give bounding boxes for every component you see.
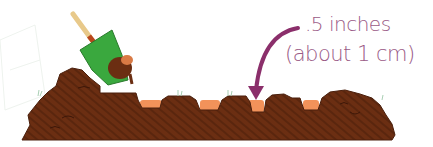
- background-grid: [0, 25, 45, 110]
- planting-depth-illustration: .5 inches (about 1 cm): [0, 0, 433, 147]
- depth-metric-label: (about 1 cm): [285, 42, 415, 66]
- depth-label: .5 inches: [305, 12, 391, 36]
